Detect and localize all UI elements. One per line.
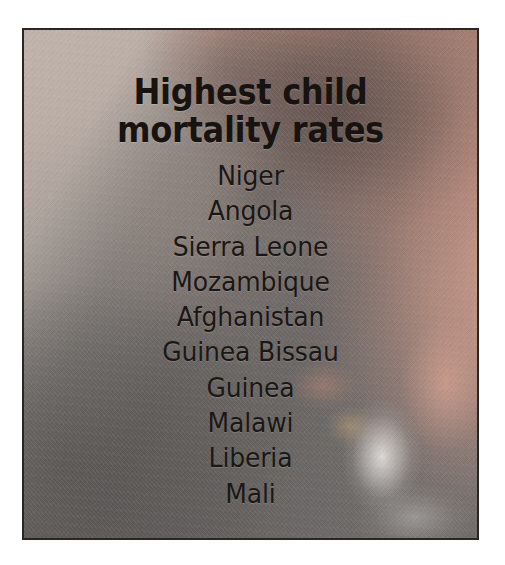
poster-text-overlay: Highest child mortality rates Niger Ango…: [24, 30, 477, 538]
page-title-line-2: mortality rates: [42, 111, 459, 149]
list-item: Liberia: [40, 440, 461, 475]
page-title: Highest child mortality rates: [42, 73, 459, 149]
list-item: Niger: [40, 158, 461, 193]
list-item: Angola: [40, 193, 461, 228]
list-item: Mali: [40, 476, 461, 511]
list-item: Malawi: [40, 405, 461, 440]
country-list: Niger Angola Sierra Leone Mozambique Afg…: [24, 158, 477, 511]
list-item: Guinea Bissau: [40, 334, 461, 369]
list-item: Afghanistan: [40, 299, 461, 334]
page-title-line-1: Highest child: [42, 73, 459, 111]
framed-photo-panel: Highest child mortality rates Niger Ango…: [22, 28, 479, 540]
list-item: Mozambique: [40, 264, 461, 299]
list-item: Guinea: [40, 370, 461, 405]
list-item: Sierra Leone: [40, 229, 461, 264]
poster-page: Highest child mortality rates Niger Ango…: [0, 0, 505, 565]
